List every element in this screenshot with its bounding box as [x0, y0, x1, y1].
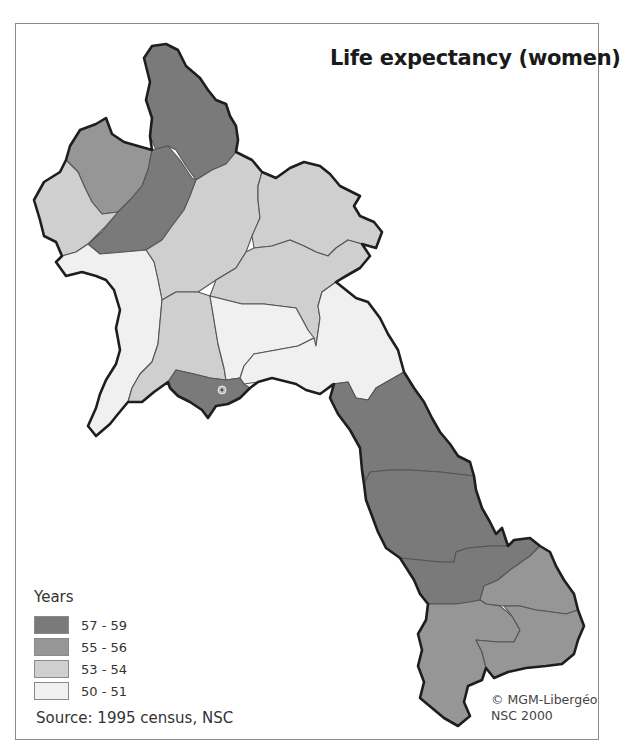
legend-swatch [34, 616, 69, 634]
legend-swatch [34, 660, 69, 678]
credit-note: © MGM-Libergéo NSC 2000 [491, 692, 598, 724]
source-note: Source: 1995 census, NSC [36, 709, 233, 727]
legend-item: 57 - 59 [34, 614, 127, 636]
legend-item: 55 - 56 [34, 636, 127, 658]
credit-line-2: NSC 2000 [491, 708, 598, 724]
legend-swatch [34, 638, 69, 656]
legend-title: Years [34, 588, 127, 606]
map-title: Life expectancy (women) [330, 46, 621, 70]
legend-item: 50 - 51 [34, 680, 127, 702]
legend: Years 57 - 59 55 - 56 53 - 54 50 - 51 [34, 588, 127, 702]
credit-line-1: © MGM-Libergéo [491, 692, 598, 708]
legend-label: 57 - 59 [81, 618, 127, 633]
legend-label: 50 - 51 [81, 684, 127, 699]
legend-item: 53 - 54 [34, 658, 127, 680]
legend-swatch [34, 682, 69, 700]
legend-label: 53 - 54 [81, 662, 127, 677]
capital-marker-icon [218, 386, 226, 394]
legend-label: 55 - 56 [81, 640, 127, 655]
region-sayabouly [56, 244, 162, 436]
